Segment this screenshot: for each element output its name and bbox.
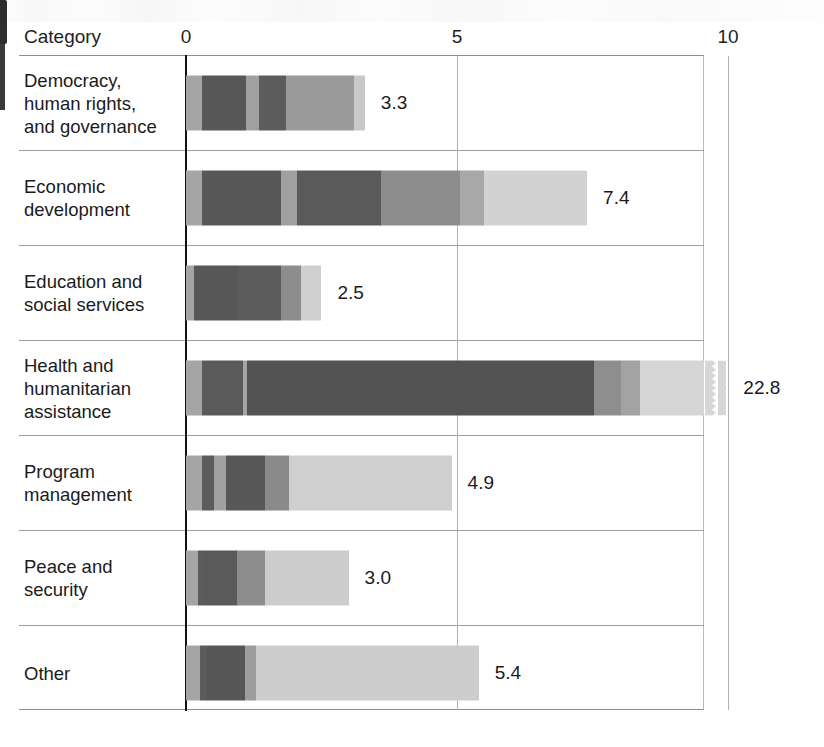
row-label-line: Education and <box>24 270 174 293</box>
bar-segment[interactable] <box>186 645 200 700</box>
bar-segment[interactable] <box>246 75 260 130</box>
stacked-bar[interactable] <box>186 360 713 415</box>
row-label-line: Program <box>24 460 174 483</box>
bar-segment[interactable] <box>381 170 460 225</box>
bar-segment[interactable] <box>202 75 245 130</box>
row-label-line: and governance <box>24 114 174 137</box>
bar-segment[interactable] <box>214 455 226 510</box>
bar-segment[interactable] <box>186 550 198 605</box>
bar-segment[interactable] <box>202 170 281 225</box>
bar-segment[interactable] <box>354 75 365 130</box>
bar-segment[interactable] <box>245 645 257 700</box>
row-label-line: humanitarian <box>24 376 174 399</box>
x-tick-0: 0 <box>181 26 192 48</box>
bar-segment[interactable] <box>202 455 214 510</box>
bar-segment[interactable] <box>247 360 594 415</box>
chart-row: Other5.4 <box>0 625 824 720</box>
stacked-bar[interactable] <box>186 75 365 130</box>
bar-value-label: 5.4 <box>495 662 521 684</box>
bar-segment[interactable] <box>186 75 202 130</box>
bar-segment[interactable] <box>621 360 640 415</box>
row-label-line: assistance <box>24 399 174 422</box>
chart-row: Health andhumanitarianassistance22.8 <box>0 340 824 435</box>
bar-segment[interactable] <box>237 265 280 320</box>
bar-segment[interactable] <box>265 455 289 510</box>
bar-value-label: 3.3 <box>381 92 407 114</box>
bar-segment[interactable] <box>259 75 286 130</box>
x-tick-10: 10 <box>717 26 738 48</box>
bar-value-label: 7.4 <box>603 187 629 209</box>
bar-segment[interactable] <box>186 455 202 510</box>
bar-segment[interactable] <box>286 75 354 130</box>
row-label: Other <box>24 661 174 684</box>
row-label-line: Peace and <box>24 555 174 578</box>
stacked-bar[interactable] <box>186 170 587 225</box>
bar-segment[interactable] <box>460 170 484 225</box>
row-label: Democracy,human rights,and governance <box>24 68 174 137</box>
chart-row: Education andsocial services2.5 <box>0 245 824 340</box>
bar-value-label: 22.8 <box>743 377 780 399</box>
stacked-bar-chart: Category 0510 Democracy,human rights,and… <box>0 0 824 747</box>
bar-segment[interactable] <box>297 170 381 225</box>
bar-segment[interactable] <box>194 265 237 320</box>
stacked-bar[interactable] <box>186 455 452 510</box>
chart-row: Economicdevelopment7.4 <box>0 150 824 245</box>
row-label: Programmanagement <box>24 460 174 506</box>
bar-value-label: 2.5 <box>338 282 364 304</box>
bar-segment[interactable] <box>237 550 265 605</box>
row-label: Education andsocial services <box>24 270 174 316</box>
bar-segment[interactable] <box>281 170 297 225</box>
bar-segment[interactable] <box>186 170 202 225</box>
bar-segment[interactable] <box>594 360 621 415</box>
bar-value-label: 4.9 <box>468 472 494 494</box>
stacked-bar[interactable] <box>186 550 349 605</box>
row-label-line: management <box>24 483 174 506</box>
chart-row: Democracy,human rights,and governance3.3 <box>0 55 824 150</box>
row-label-line: Other <box>24 661 174 684</box>
chart-row: Programmanagement4.9 <box>0 435 824 530</box>
row-label-line: security <box>24 578 174 601</box>
bar-segment[interactable] <box>640 360 713 415</box>
row-label-line: Democracy, <box>24 68 174 91</box>
row-label-line: development <box>24 198 174 221</box>
row-label-line: Health and <box>24 353 174 376</box>
stacked-bar[interactable] <box>186 265 322 320</box>
bar-segment[interactable] <box>301 265 321 320</box>
stacked-bar[interactable] <box>186 645 479 700</box>
axis-break-marker <box>704 360 728 415</box>
bar-segment[interactable] <box>226 455 265 510</box>
bar-segment[interactable] <box>186 265 194 320</box>
x-tick-5: 5 <box>452 26 463 48</box>
row-label: Economicdevelopment <box>24 175 174 221</box>
category-column-header: Category <box>24 26 101 48</box>
bar-segment[interactable] <box>207 645 245 700</box>
row-label-line: Economic <box>24 175 174 198</box>
bar-segment[interactable] <box>186 360 202 415</box>
row-label: Peace andsecurity <box>24 555 174 601</box>
bar-value-label: 3.0 <box>365 567 391 589</box>
bar-segment[interactable] <box>265 550 348 605</box>
chart-row: Peace andsecurity3.0 <box>0 530 824 625</box>
bar-segment[interactable] <box>203 550 237 605</box>
row-label-line: social services <box>24 293 174 316</box>
bar-segment[interactable] <box>256 645 478 700</box>
bar-segment[interactable] <box>202 360 243 415</box>
bar-segment[interactable] <box>281 265 302 320</box>
bar-segment[interactable] <box>484 170 587 225</box>
row-label-line: human rights, <box>24 91 174 114</box>
bar-segment[interactable] <box>289 455 452 510</box>
row-label: Health andhumanitarianassistance <box>24 353 174 422</box>
